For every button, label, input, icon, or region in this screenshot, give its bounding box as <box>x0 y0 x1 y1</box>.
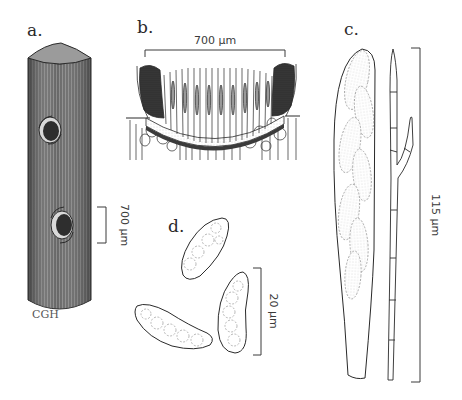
panel-label-c: c. <box>344 21 359 38</box>
scale-bar-a: 700 µm <box>97 204 131 246</box>
panel-c-paraphysis <box>388 49 413 380</box>
scale-label-a: 700 µm <box>118 204 131 246</box>
artist-signature: CGH <box>32 308 59 321</box>
scale-label-d: 20 µm <box>267 293 280 328</box>
spore-2 <box>218 272 249 353</box>
scale-bar-c: 115 µm <box>411 48 442 382</box>
ascoma-upper <box>39 116 61 144</box>
panel-a-stem <box>28 43 91 309</box>
panel-label-a: a. <box>27 22 43 39</box>
figure-canvas: 700 µm CGH <box>0 0 462 400</box>
panel-label-b: b. <box>137 19 153 36</box>
panel-c-ascus <box>334 48 377 378</box>
scale-bar-d: 20 µm <box>253 268 280 355</box>
illustration: 700 µm CGH <box>0 0 462 400</box>
panel-b-section <box>126 63 300 160</box>
panel-label-d: d. <box>168 218 184 235</box>
scale-label-c: 115 µm <box>429 194 442 236</box>
spore-3 <box>135 304 212 348</box>
scale-bar-b: 700 µm <box>145 34 285 57</box>
panel-d-spores <box>135 218 248 353</box>
scale-label-b: 700 µm <box>194 34 236 47</box>
